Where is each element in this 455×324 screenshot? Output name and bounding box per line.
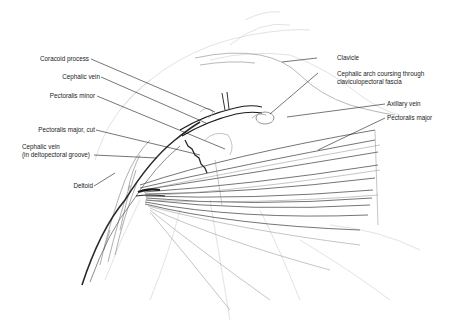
label-deltopectoral-groove: (in deltopectoral groove) xyxy=(22,151,90,159)
label-cephalic-arch: Cephalic arch coursing through xyxy=(337,70,424,78)
label-claviculopectoral-fascia: claviculopectoral fascia xyxy=(337,78,402,86)
label-pectoralis-minor: Pectoralis minor xyxy=(50,92,95,100)
label-pectoralis-major-cut: Pectoralis major, cut xyxy=(38,126,95,134)
label-cephalic-vein: Cephalic vein xyxy=(62,73,100,81)
anatomy-figure: Coracoid process Cephalic vein Pectorali… xyxy=(0,0,455,324)
label-cephalic-vein-groove: Cephalic vein xyxy=(22,143,60,151)
label-axillary-vein: Axillary vein xyxy=(387,100,421,108)
label-pectoralis-major: Pectoralis major xyxy=(387,114,432,122)
shoulder-illustration xyxy=(0,0,455,324)
label-coracoid-process: Coracoid process xyxy=(40,55,89,63)
label-clavicle: Clavicle xyxy=(337,54,359,62)
label-deltoid: Deltoid xyxy=(73,182,93,190)
